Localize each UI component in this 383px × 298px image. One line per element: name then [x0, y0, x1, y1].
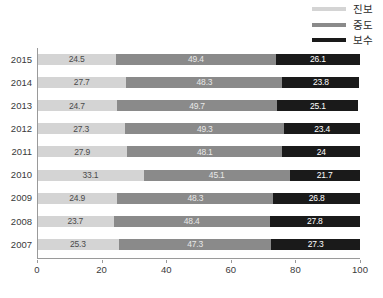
bar-value-label: 49.3 [197, 125, 213, 134]
y-axis-label-2008: 2008 [6, 217, 32, 227]
x-tick-mark [231, 260, 232, 263]
x-tick-label: 20 [96, 265, 107, 275]
stacked-bar[interactable]: 24.948.326.8 [37, 193, 360, 204]
bar-value-label: 24.9 [69, 194, 85, 203]
legend-item-moderate[interactable]: 중도 [312, 20, 375, 31]
y-axis-label-2009: 2009 [6, 193, 32, 203]
bar-rows: 201524.549.426.1201427.748.323.8201324.7… [0, 48, 383, 256]
y-axis-label-2013: 2013 [6, 101, 32, 111]
x-tick-label: 100 [352, 265, 368, 275]
legend-swatch-progressive [312, 7, 346, 11]
legend-swatch-moderate [312, 23, 346, 27]
x-tick-mark [37, 260, 38, 263]
bar-segment-conservative[interactable]: 24 [282, 146, 360, 157]
bar-segment-progressive[interactable]: 27.3 [37, 123, 125, 134]
bar-value-label: 45.1 [209, 171, 225, 180]
bar-value-label: 48.1 [197, 148, 213, 157]
bar-value-label: 49.7 [189, 102, 205, 111]
bar-segment-conservative[interactable]: 21.7 [290, 170, 360, 181]
bar-segment-conservative[interactable]: 27.8 [270, 216, 360, 227]
legend-item-conservative[interactable]: 보수 [312, 35, 375, 46]
bar-segment-moderate[interactable]: 48.1 [127, 146, 282, 157]
legend-label-conservative: 보수 [353, 35, 375, 46]
bar-segment-conservative[interactable]: 27.3 [271, 239, 359, 250]
bar-segment-moderate[interactable]: 48.4 [114, 216, 270, 227]
y-axis-label-2015: 2015 [6, 55, 32, 65]
bar-segment-conservative[interactable]: 23.4 [284, 123, 360, 134]
legend-swatch-conservative [312, 38, 346, 42]
bar-value-label: 27.8 [307, 217, 323, 226]
bar-segment-moderate[interactable]: 49.3 [125, 123, 284, 134]
bar-segment-progressive[interactable]: 25.3 [37, 239, 119, 250]
bar-value-label: 26.1 [310, 55, 326, 64]
bar-value-label: 25.3 [70, 240, 86, 249]
bar-row: 201427.748.323.8 [0, 71, 383, 94]
chart-legend: 진보중도보수 [312, 4, 375, 46]
stacked-bar[interactable]: 33.145.121.7 [37, 170, 360, 181]
bar-row: 200924.948.326.8 [0, 187, 383, 210]
stacked-bar[interactable]: 27.349.323.4 [37, 123, 360, 134]
bar-row: 201033.145.121.7 [0, 164, 383, 187]
bar-value-label: 27.3 [73, 125, 89, 134]
bar-row: 201127.948.124 [0, 140, 383, 163]
bar-segment-progressive[interactable]: 24.9 [37, 193, 117, 204]
bar-segment-moderate[interactable]: 49.4 [116, 54, 276, 65]
bar-row: 201324.749.725.1 [0, 94, 383, 117]
bar-segment-progressive[interactable]: 27.9 [37, 146, 127, 157]
stacked-bar[interactable]: 24.749.725.1 [37, 100, 358, 111]
bar-value-label: 23.8 [313, 78, 329, 87]
x-tick-label: 80 [290, 265, 301, 275]
y-axis-line [37, 48, 38, 258]
legend-item-progressive[interactable]: 진보 [312, 4, 375, 15]
stacked-bar-chart: 진보중도보수 201524.549.426.1201427.748.323.82… [0, 0, 383, 298]
legend-label-progressive: 진보 [353, 4, 375, 15]
legend-label-moderate: 중도 [353, 20, 375, 31]
bar-segment-conservative[interactable]: 26.8 [273, 193, 360, 204]
bar-value-label: 25.1 [310, 102, 326, 111]
bar-row: 201524.549.426.1 [0, 48, 383, 71]
stacked-bar[interactable]: 25.347.327.3 [37, 239, 360, 250]
bar-value-label: 27.9 [74, 148, 90, 157]
stacked-bar[interactable]: 27.948.124 [37, 146, 360, 157]
bar-segment-conservative[interactable]: 26.1 [276, 54, 360, 65]
bar-segment-progressive[interactable]: 33.1 [37, 170, 144, 181]
bar-segment-moderate[interactable]: 45.1 [144, 170, 290, 181]
bar-value-label: 23.4 [314, 125, 330, 134]
stacked-bar[interactable]: 27.748.323.8 [37, 77, 359, 88]
bar-row: 200823.748.427.8 [0, 210, 383, 233]
bar-segment-moderate[interactable]: 48.3 [126, 77, 282, 88]
bar-segment-progressive[interactable]: 24.7 [37, 100, 117, 111]
bar-segment-conservative[interactable]: 25.1 [277, 100, 358, 111]
x-tick-label: 40 [161, 265, 172, 275]
bar-segment-progressive[interactable]: 24.5 [37, 54, 116, 65]
x-tick-mark [360, 260, 361, 263]
stacked-bar[interactable]: 23.748.427.8 [37, 216, 360, 227]
bar-value-label: 27.7 [74, 78, 90, 87]
bar-value-label: 33.1 [83, 171, 99, 180]
x-axis-ticks: 020406080100 [0, 260, 383, 280]
bar-row: 200725.347.327.3 [0, 233, 383, 256]
bar-segment-moderate[interactable]: 47.3 [119, 239, 272, 250]
x-tick-label: 0 [34, 265, 39, 275]
bar-segment-conservative[interactable]: 23.8 [282, 77, 359, 88]
y-axis-label-2014: 2014 [6, 78, 32, 88]
y-axis-label-2010: 2010 [6, 170, 32, 180]
bar-value-label: 47.3 [187, 240, 203, 249]
bar-segment-moderate[interactable]: 49.7 [117, 100, 278, 111]
bar-segment-progressive[interactable]: 27.7 [37, 77, 126, 88]
bar-value-label: 23.7 [67, 217, 83, 226]
stacked-bar[interactable]: 24.549.426.1 [37, 54, 360, 65]
x-tick-mark [295, 260, 296, 263]
bar-value-label: 26.8 [309, 194, 325, 203]
x-tick-label: 60 [226, 265, 237, 275]
bar-segment-moderate[interactable]: 48.3 [117, 193, 273, 204]
x-axis-line [37, 258, 360, 259]
bar-segment-progressive[interactable]: 23.7 [37, 216, 114, 227]
bar-value-label: 24.7 [69, 102, 85, 111]
bar-value-label: 24.5 [69, 55, 85, 64]
bar-value-label: 49.4 [188, 55, 204, 64]
bar-row: 201227.349.323.4 [0, 117, 383, 140]
x-tick-mark [102, 260, 103, 263]
y-axis-label-2011: 2011 [6, 147, 32, 157]
bar-value-label: 48.4 [184, 217, 200, 226]
